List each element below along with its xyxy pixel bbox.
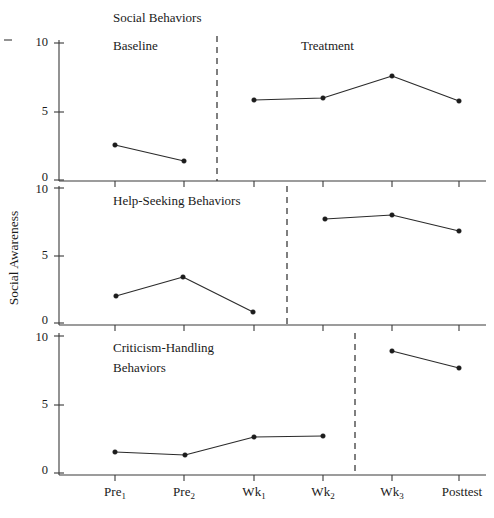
panel1-point-wk1 <box>252 98 257 103</box>
panel3-ylabel-0: 0 <box>42 463 48 477</box>
xtick-label-pre2: Pre2 <box>173 484 195 501</box>
panel1-point-wk3 <box>390 74 395 79</box>
xtick-label-wk2: Wk2 <box>311 484 334 501</box>
xtick-label-wk2-base: Wk <box>311 484 330 499</box>
panel1-title: Social Behaviors <box>113 10 201 25</box>
panel3-point-wk1 <box>252 435 257 440</box>
xtick-label-wk1: Wk1 <box>242 484 265 501</box>
panel2-point-pre1 <box>114 294 119 299</box>
panel2-point-wk2 <box>323 217 328 222</box>
xtick-label-wk1-sub: 1 <box>261 491 266 501</box>
panel2-ylabel-0: 0 <box>42 313 48 327</box>
panel1-point-pre1 <box>113 143 118 148</box>
xtick-label-wk3-base: Wk <box>380 484 399 499</box>
xtick-label-wk3-sub: 3 <box>399 491 404 501</box>
xtick-label-wk1-base: Wk <box>242 484 261 499</box>
panel3-ylabel-5: 5 <box>42 397 48 411</box>
panel3-point-pre2 <box>183 453 188 458</box>
panel-criticism-handling-behaviors: 10 5 0 Criticism-Handling Behaviors <box>36 330 487 481</box>
panel1-baseline-label: Baseline <box>113 38 158 53</box>
xtick-label-wk2-sub: 2 <box>330 491 335 501</box>
panel1-treatment-label: Treatment <box>301 38 354 53</box>
panel3-treatment-series <box>392 351 459 368</box>
panel2-baseline-series <box>116 277 253 312</box>
panel3-title-line2: Behaviors <box>113 360 166 375</box>
panel2-point-wk1 <box>251 310 256 315</box>
panel3-point-posttest <box>457 366 462 371</box>
panel1-ylabel-10: 10 <box>36 35 49 49</box>
panel1-treatment-series <box>254 76 459 101</box>
panel1-point-posttest <box>457 99 462 104</box>
panel1-point-wk2 <box>321 96 326 101</box>
panel1-point-pre2 <box>182 159 187 164</box>
xtick-label-pre1: Pre1 <box>104 484 126 501</box>
panel-help-seeking-behaviors: 10 5 0 Help-Seeking Behaviors <box>36 182 487 331</box>
panel2-ylabel-10: 10 <box>36 182 49 196</box>
xtick-label-pre1-sub: 1 <box>121 491 126 501</box>
panel3-point-wk2 <box>321 434 326 439</box>
xtick-label-posttest-base: Posttest <box>442 484 483 499</box>
panel3-point-wk3 <box>390 349 395 354</box>
x-axis-tick-labels: Pre1 Pre2 Wk1 Wk2 Wk3 Posttest <box>104 484 483 501</box>
xtick-label-wk3: Wk3 <box>380 484 404 501</box>
panel2-title: Help-Seeking Behaviors <box>113 193 240 208</box>
panel3-ylabel-10: 10 <box>36 330 49 344</box>
chart-canvas: Social Awareness 10 5 0 Social Behaviors… <box>0 0 494 518</box>
xtick-label-posttest: Posttest <box>442 484 483 499</box>
panel1-ylabel-5: 5 <box>42 104 48 118</box>
panel2-point-pre2 <box>181 275 186 280</box>
xtick-label-pre1-base: Pre <box>104 484 122 499</box>
y-axis-title: Social Awareness <box>6 211 21 305</box>
panel3-title: Criticism-Handling <box>113 340 215 355</box>
xtick-label-pre2-sub: 2 <box>190 491 195 501</box>
panel3-baseline-series <box>115 436 323 455</box>
panel-social-behaviors: 10 5 0 Social Behaviors Baseline Treatme… <box>36 10 487 187</box>
panel2-point-posttest <box>457 229 462 234</box>
panel2-ylabel-5: 5 <box>42 248 48 262</box>
panel2-point-wk3 <box>390 213 395 218</box>
xtick-label-pre2-base: Pre <box>173 484 191 499</box>
panel1-baseline-series <box>115 145 184 161</box>
panel3-point-pre1 <box>113 450 118 455</box>
multiple-baseline-chart: Social Awareness 10 5 0 Social Behaviors… <box>0 0 494 518</box>
